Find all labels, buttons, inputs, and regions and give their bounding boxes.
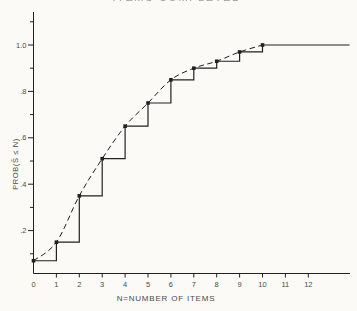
data-point-marker	[55, 240, 59, 244]
x-tick-label: 12	[304, 280, 312, 289]
data-point-marker	[32, 259, 36, 263]
y-tick-label: .2	[20, 226, 26, 235]
x-axis-title: N=NUMBER OF ITEMS	[117, 294, 216, 303]
x-tick-label: 2	[77, 280, 81, 289]
y-tick-label: .6	[20, 133, 26, 142]
x-tick-label: 3	[100, 280, 104, 289]
x-tick-label: 9	[238, 280, 242, 289]
data-point-marker	[78, 194, 82, 198]
x-tick-label: 10	[258, 280, 266, 289]
data-point-marker	[146, 101, 150, 105]
x-tick-label: 1	[54, 280, 58, 289]
data-point-marker	[238, 50, 242, 54]
data-point-marker	[169, 78, 173, 82]
y-tick-label: 1.0	[16, 41, 26, 50]
figure: ITEMS COMPLETED PROB(S̃ ≤ N) .2.4.6.81.0…	[0, 0, 357, 311]
step-function-line	[34, 45, 350, 261]
x-tick-label: 6	[169, 280, 173, 289]
chart-svg: .2.4.6.81.00123456789101112	[0, 0, 357, 311]
data-point-marker	[192, 66, 196, 70]
x-tick-label: 11	[282, 280, 290, 289]
y-tick-label: .8	[20, 87, 26, 96]
figure-title-clipped: ITEMS COMPLETED	[112, 0, 241, 3]
data-point-marker	[100, 157, 104, 161]
data-point-marker	[215, 59, 219, 63]
x-tick-label: 8	[215, 280, 219, 289]
x-tick-label: 5	[146, 280, 150, 289]
y-axis-title: PROB(S̃ ≤ N)	[11, 138, 20, 190]
smooth-cdf-curve	[34, 45, 263, 261]
x-tick-label: 0	[31, 280, 35, 289]
data-point-marker	[123, 124, 127, 128]
x-tick-label: 4	[123, 280, 127, 289]
data-point-marker	[261, 43, 265, 47]
x-tick-label: 7	[192, 280, 196, 289]
y-tick-label: .4	[20, 180, 26, 189]
